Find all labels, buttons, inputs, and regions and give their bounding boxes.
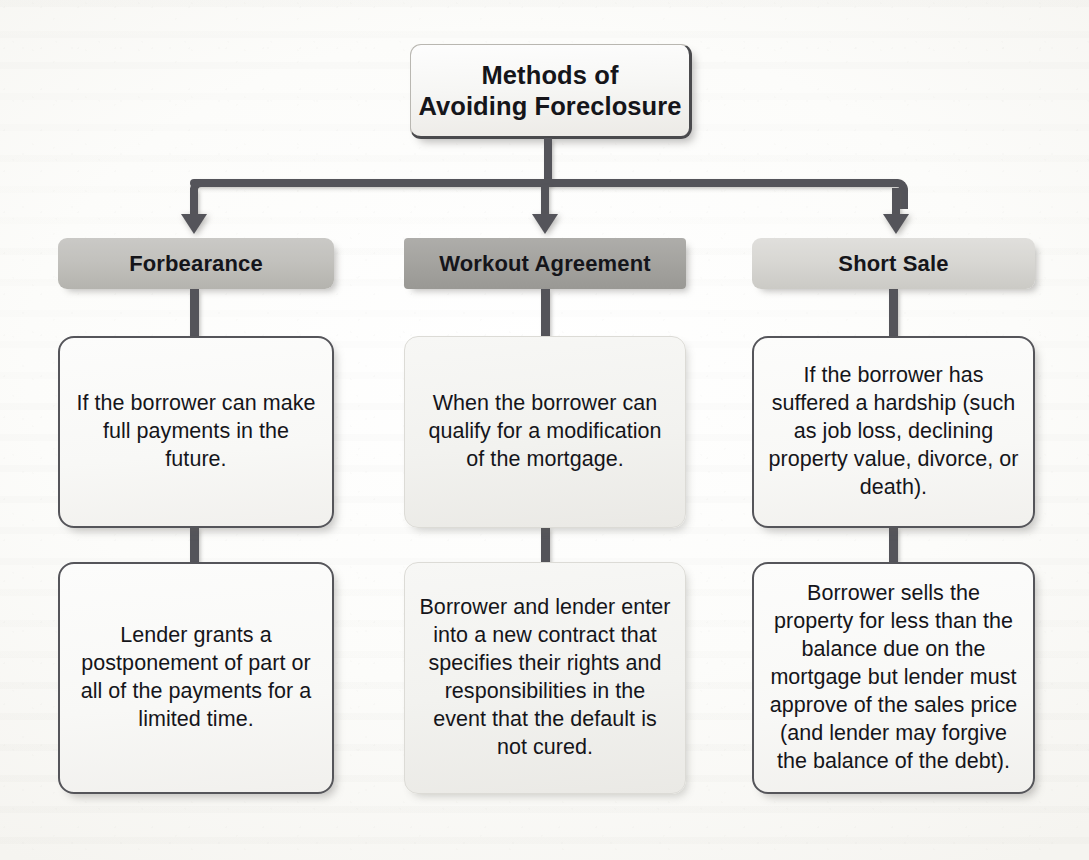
- column-header-short-sale: Short Sale: [752, 238, 1035, 289]
- connector-arrow-shaft-1: [190, 188, 198, 216]
- content-box-forbearance-1: If the borrower can make full payments i…: [58, 336, 334, 528]
- arrow-down-icon-2: [532, 214, 558, 234]
- connector-col2-box1-to-box2: [541, 527, 550, 564]
- column-header-forbearance: Forbearance: [58, 238, 334, 289]
- content-box-text: If the borrower can make full payments i…: [74, 390, 318, 474]
- content-box-text: If the borrower has suffered a hardship …: [768, 362, 1019, 502]
- arrow-down-icon-3: [883, 214, 909, 234]
- connector-elbow-right: [878, 179, 908, 209]
- content-box-text: Lender grants a postponement of part or …: [74, 622, 318, 734]
- content-box-short-sale-1: If the borrower has suffered a hardship …: [752, 336, 1035, 528]
- column-header-workout-agreement: Workout Agreement: [404, 238, 686, 289]
- content-box-forbearance-2: Lender grants a postponement of part or …: [58, 562, 334, 794]
- content-box-text: Borrower and lender enter into a new con…: [419, 594, 671, 762]
- diagram-title-line-2: Avoiding Foreclosure: [418, 91, 681, 121]
- column-header-label: Workout Agreement: [439, 251, 651, 277]
- connector-elbow-left: [190, 179, 220, 209]
- connector-horizontal-bus: [190, 179, 900, 187]
- content-box-text: When the borrower can qualify for a modi…: [419, 390, 671, 474]
- content-box-workout-agreement-2: Borrower and lender enter into a new con…: [404, 562, 686, 794]
- connector-arrow-shaft-3: [892, 188, 900, 216]
- diagram-title-line-1: Methods of: [418, 60, 681, 90]
- connector-col3-header-to-box1: [889, 289, 898, 338]
- connector-arrow-shaft-2: [541, 185, 549, 216]
- connector-col3-box1-to-box2: [889, 527, 898, 564]
- column-header-label: Short Sale: [838, 251, 948, 277]
- diagram-title-node: Methods of Avoiding Foreclosure: [410, 44, 692, 139]
- content-box-short-sale-2: Borrower sells the property for less tha…: [752, 562, 1035, 794]
- connector-col1-box1-to-box2: [190, 527, 199, 564]
- arrow-down-icon-1: [181, 214, 207, 234]
- content-box-workout-agreement-1: When the borrower can qualify for a modi…: [404, 336, 686, 528]
- connector-col1-header-to-box1: [190, 289, 199, 338]
- content-box-text: Borrower sells the property for less tha…: [768, 580, 1019, 776]
- column-header-label: Forbearance: [129, 251, 263, 277]
- connector-title-stem: [544, 138, 552, 186]
- diagram-canvas: Methods of Avoiding Foreclosure Forbeara…: [0, 0, 1089, 860]
- connector-col2-header-to-box1: [541, 289, 550, 338]
